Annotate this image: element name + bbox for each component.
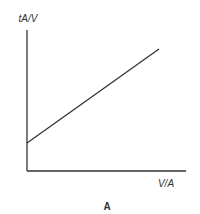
- y-axis-label: tA/V: [19, 13, 39, 24]
- figure-caption: A: [103, 201, 110, 212]
- chart: tA/V V/A A: [0, 0, 200, 214]
- data-line: [27, 49, 159, 143]
- x-axis-label: V/A: [158, 178, 174, 189]
